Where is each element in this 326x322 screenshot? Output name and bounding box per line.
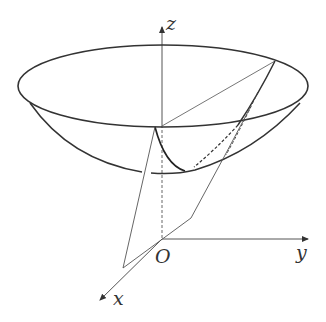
section-curve — [155, 127, 185, 171]
origin-label: O — [155, 245, 171, 267]
paraboloid-rim — [18, 45, 308, 127]
y-axis-label: y — [295, 241, 307, 263]
z-axis-label: z — [165, 12, 177, 34]
cutting-plane-right-edge — [224, 108, 250, 157]
x-axis-label: x — [113, 287, 124, 309]
paraboloid-left-side — [30, 103, 142, 172]
x-axis — [100, 239, 162, 300]
diagram-canvas: z y x O — [0, 0, 326, 322]
cutting-plane — [123, 127, 224, 268]
section-curve-upper — [238, 61, 275, 125]
